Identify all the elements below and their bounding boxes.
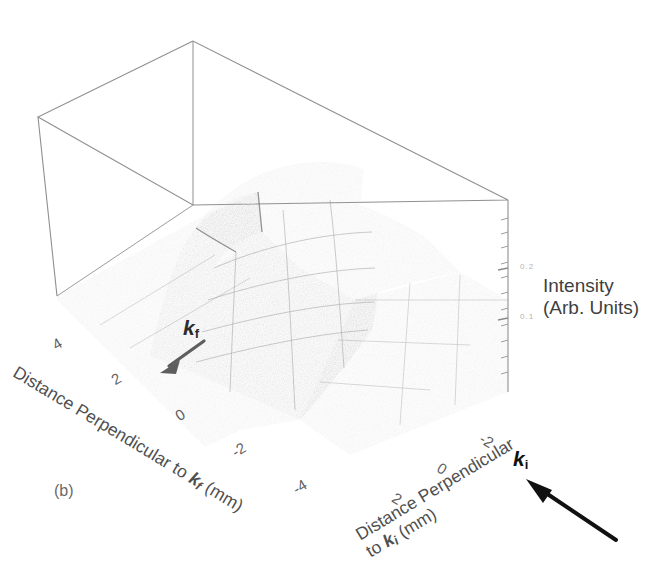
figure-panel-b: 4 2 0 -2 -4 Distance Perpendicular to kf…	[0, 0, 663, 587]
z-axis-tick-0p2: 0.2	[520, 262, 534, 271]
box-edge-back-left	[38, 117, 57, 296]
k-f-vector-label: kf	[183, 316, 199, 342]
panel-label: (b)	[54, 482, 74, 500]
z-axis-title: Intensity (Arb. Units)	[543, 275, 639, 319]
z-axis-title-line2: (Arb. Units)	[543, 297, 639, 319]
z-axis-tick-0p1: 0.1	[520, 312, 534, 321]
k-f-subscript: f	[195, 326, 199, 341]
k-i-arrow	[526, 479, 616, 540]
k-i-vector-label: ki	[513, 447, 528, 473]
k-f-symbol: k	[183, 316, 195, 339]
k-i-symbol: k	[513, 447, 525, 470]
k-i-subscript: i	[525, 457, 529, 472]
z-axis-title-line1: Intensity	[543, 275, 639, 297]
